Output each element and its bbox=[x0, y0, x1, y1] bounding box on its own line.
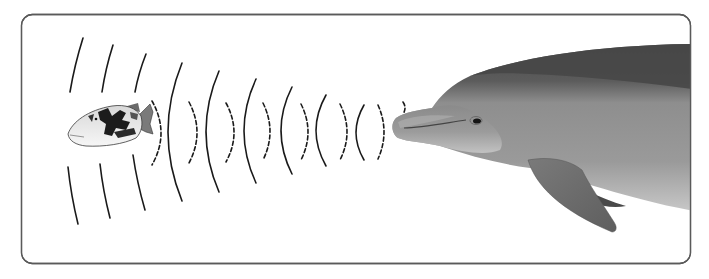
dolphin-eye bbox=[473, 118, 481, 123]
echolocation-diagram bbox=[0, 0, 709, 279]
diagram-canvas bbox=[0, 0, 709, 279]
